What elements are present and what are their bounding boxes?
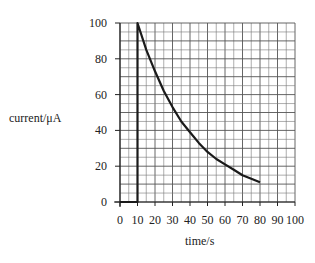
svg-text:10: 10 [132, 213, 144, 227]
svg-text:0: 0 [117, 213, 123, 227]
svg-text:60: 60 [219, 213, 231, 227]
svg-text:20: 20 [95, 159, 107, 173]
svg-text:20: 20 [149, 213, 161, 227]
svg-text:40: 40 [95, 123, 107, 137]
svg-text:100: 100 [286, 213, 304, 227]
svg-text:0: 0 [101, 195, 107, 209]
svg-text:100: 100 [89, 16, 107, 30]
svg-text:40: 40 [184, 213, 196, 227]
svg-text:70: 70 [237, 213, 249, 227]
axes [114, 23, 295, 207]
svg-text:80: 80 [254, 213, 266, 227]
svg-text:80: 80 [95, 52, 107, 66]
x-axis-label: time/s [185, 234, 214, 249]
svg-text:30: 30 [167, 213, 179, 227]
svg-text:50: 50 [202, 213, 214, 227]
current-time-chart: 0204060801000102030405060708090100 [0, 0, 315, 263]
y-axis-label: current/μA [9, 111, 61, 126]
svg-text:90: 90 [272, 213, 284, 227]
svg-text:60: 60 [95, 88, 107, 102]
